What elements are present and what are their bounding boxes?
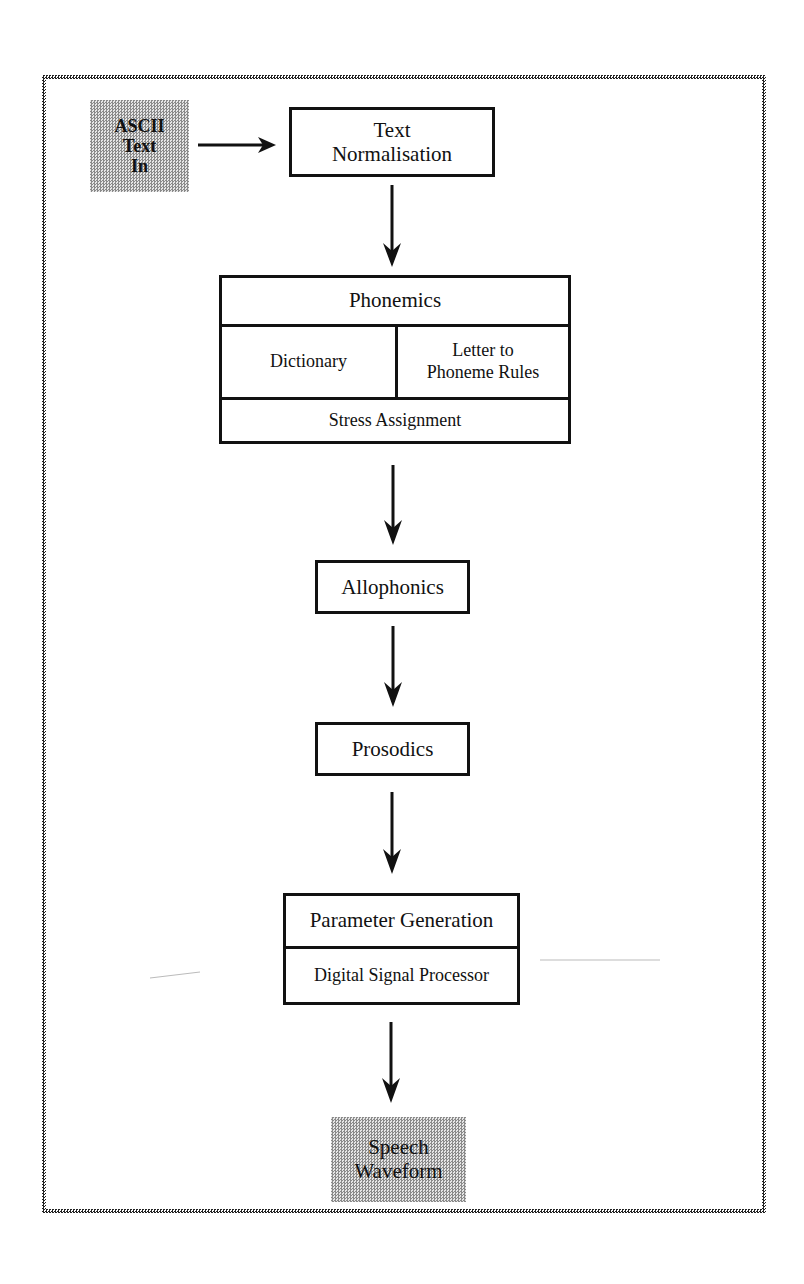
arrow-phonemics-to-allophonics bbox=[384, 465, 402, 545]
arrow-dsp-to-waveform bbox=[382, 1022, 400, 1103]
arrow-allophonics-to-prosodics bbox=[384, 626, 402, 707]
arrow-prosodics-to-parameters bbox=[383, 792, 401, 874]
arrow-normalisation-to-phonemics bbox=[383, 185, 401, 267]
arrows-layer bbox=[0, 0, 804, 1284]
scan-artifact-left bbox=[150, 972, 200, 978]
arrow-input-to-normalisation bbox=[198, 137, 276, 153]
